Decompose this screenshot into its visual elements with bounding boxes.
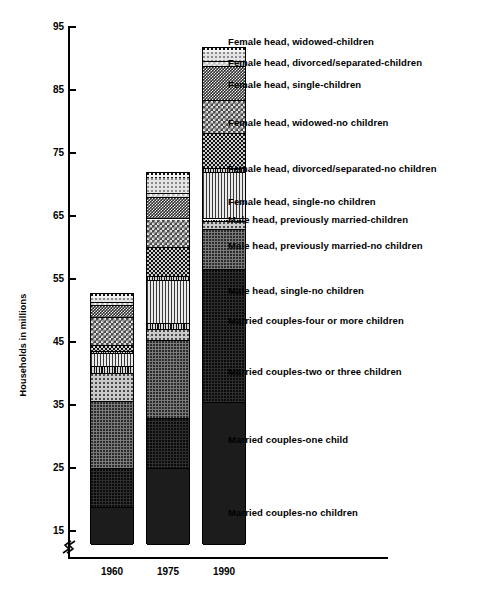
legend-label: Married couples-no children (228, 507, 358, 518)
axis-break-icon (62, 540, 78, 554)
legend-label: Female head, widowed-no children (228, 117, 389, 128)
bar-segment (91, 318, 133, 346)
y-tick-label: 65 (38, 210, 64, 221)
x-tick-label-1990: 1990 (194, 566, 254, 577)
y-tick (68, 530, 76, 532)
bar-segment (91, 354, 133, 367)
legend-label: Married couples-one child (228, 434, 348, 445)
legend-label: Female head, single-children (228, 79, 361, 90)
y-tick-label: 95 (38, 21, 64, 32)
y-tick-label: 55 (38, 273, 64, 284)
y-tick (68, 215, 76, 217)
legend-label: Married couples-two or three children (228, 366, 402, 377)
legend-label: Male head, previously married-no childre… (228, 240, 423, 251)
bar-1975 (146, 172, 190, 544)
y-tick-label: 75 (38, 147, 64, 158)
bar-1960 (90, 293, 134, 544)
legend-label: Female head, divorced/separated-children (228, 57, 422, 68)
bar-segment (91, 402, 133, 469)
bar-segment (147, 330, 189, 341)
bar-segment (147, 248, 189, 277)
bar-segment (147, 341, 189, 418)
bar-segment (147, 178, 189, 194)
y-tick (68, 152, 76, 154)
y-axis-line (68, 27, 70, 559)
bar-segment (91, 508, 133, 545)
y-tick-label: 15 (38, 525, 64, 536)
bar-segment (91, 367, 133, 375)
y-tick-label: 25 (38, 462, 64, 473)
bar-segment (147, 198, 189, 219)
x-axis-line (68, 557, 388, 559)
x-tick-label-1960: 1960 (82, 566, 142, 577)
bar-segment (203, 403, 245, 544)
bar-segment (91, 469, 133, 508)
y-tick (68, 404, 76, 406)
bar-segment (147, 419, 189, 469)
y-tick (68, 26, 76, 28)
legend-label: Male head, previously married-children (228, 214, 408, 225)
y-tick (68, 467, 76, 469)
legend-label: Married couples-four or more children (228, 315, 404, 326)
y-tick-label: 35 (38, 399, 64, 410)
y-tick-label: 45 (38, 336, 64, 347)
bar-segment (147, 469, 189, 545)
y-tick (68, 341, 76, 343)
bar-segment (147, 220, 189, 249)
legend-label: Female head, widowed-children (228, 36, 374, 47)
bar-segment (147, 281, 189, 324)
y-tick-label: 85 (38, 84, 64, 95)
legend-label: Female head, single-no children (228, 196, 376, 207)
y-tick (68, 89, 76, 91)
y-axis-title: Households in millions (18, 270, 28, 420)
stacked-bar-chart: Households in millions 15253545556575859… (0, 0, 479, 593)
y-tick (68, 278, 76, 280)
legend-label: Female head, divorced/separated-no child… (228, 163, 437, 174)
bar-segment (91, 306, 133, 317)
x-tick-label-1975: 1975 (138, 566, 198, 577)
legend-label: Male head, single-no children (228, 285, 364, 296)
bar-segment (91, 374, 133, 402)
